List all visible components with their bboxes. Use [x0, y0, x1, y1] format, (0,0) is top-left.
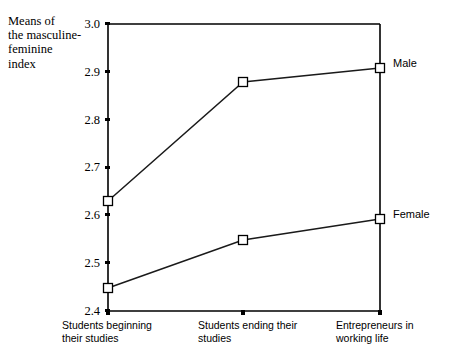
series-markers-male	[104, 64, 385, 206]
series-label-female: Female	[393, 208, 430, 220]
chart-page: Means of the masculine- feminine index 3…	[0, 0, 450, 351]
series-line-male	[108, 68, 380, 201]
axis-frame	[108, 24, 380, 311]
x-tick-label-1: Students ending their studies	[198, 319, 333, 345]
plot-area	[0, 0, 450, 351]
series-label-male: Male	[393, 57, 417, 69]
series-markers-female	[104, 215, 385, 293]
series-line-female	[108, 219, 380, 288]
x-tick-label-0: Students beginning their studies	[62, 319, 192, 345]
x-tick-label-2: Entrepreneurs in working life	[336, 319, 448, 345]
